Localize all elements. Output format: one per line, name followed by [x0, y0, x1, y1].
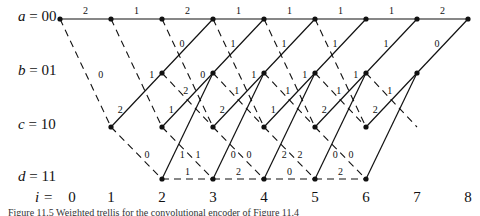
branch-label-b-c: 1: [387, 85, 392, 96]
step-label: 4: [260, 189, 268, 206]
node-c: [108, 124, 113, 129]
node-a: [108, 16, 113, 21]
step-label: 1: [107, 189, 115, 206]
node-c: [210, 124, 215, 129]
node-a: [465, 16, 470, 21]
branch-b-a: [162, 19, 213, 73]
branch-label-b-a: 1: [282, 38, 287, 49]
node-c: [312, 124, 317, 129]
node-d: [261, 176, 266, 181]
state-label-d: d = 11: [18, 168, 56, 185]
branch-label-c-b: 1: [169, 104, 174, 115]
node-a: [363, 16, 368, 21]
step-label: 8: [464, 189, 472, 206]
node-b: [312, 70, 317, 75]
step-label: 0: [68, 189, 76, 206]
node-b: [414, 70, 419, 75]
step-label: 7: [413, 189, 421, 206]
branch-label-a-a: 1: [338, 5, 343, 16]
branch-label-a-a: 1: [236, 5, 241, 16]
branch-label-a-c: 1: [302, 69, 307, 80]
branch-b-a: [213, 19, 264, 73]
node-b: [159, 70, 164, 75]
branch-label-a-c: 0: [98, 69, 103, 80]
branch-label-d-d: 0: [287, 166, 292, 177]
branch-label-a-a: 2: [185, 5, 190, 16]
branch-label-b-c: 1: [234, 85, 239, 96]
branch-label-d-d: 2: [236, 166, 241, 177]
node-d: [363, 176, 368, 181]
branch-c-b: [111, 73, 162, 127]
branch-label-b-c: 2: [183, 85, 188, 96]
branch-label-c-d: 1: [196, 149, 201, 160]
figure-caption: Figure 11.5 Weighted trellis for the con…: [8, 207, 299, 216]
branch-label-c-d: 0: [145, 149, 150, 160]
branch-label-a-c: 1: [251, 69, 256, 80]
branch-label-b-c: 1: [285, 85, 290, 96]
branch-label-d-b: 0: [333, 149, 338, 160]
branch-c-d: [111, 127, 162, 179]
branch-b-a: [264, 19, 315, 73]
branch-label-c-d: 2: [298, 149, 303, 160]
node-a: [414, 16, 419, 21]
branch-label-b-a: 1: [333, 38, 338, 49]
branch-label-c-d: 0: [349, 149, 354, 160]
branch-label-a-a: 2: [83, 5, 88, 16]
branch-label-d-b: 0: [231, 149, 236, 160]
branch-label-a-a: 1: [389, 5, 394, 16]
branch-label-a-a: 1: [134, 5, 139, 16]
step-label: 3: [209, 189, 217, 206]
step-axis-prefix: i =: [35, 189, 53, 206]
branch-label-d-d: 1: [185, 166, 190, 177]
branch-label-a-a: 1: [287, 5, 292, 16]
branch-label-a-c: 1: [353, 69, 358, 80]
node-d: [159, 176, 164, 181]
branch-label-b-c: 1: [336, 85, 341, 96]
trellis-diagram: 2121111201011101111021111212122010201020…: [0, 0, 480, 216]
step-label: 6: [362, 189, 370, 206]
node-c: [363, 124, 368, 129]
node-c: [261, 124, 266, 129]
step-label: 5: [311, 189, 319, 206]
branch-label-d-d: 2: [338, 166, 343, 177]
node-b: [210, 70, 215, 75]
step-label: 2: [158, 189, 166, 206]
state-label-c: c = 10: [18, 116, 56, 133]
branch-label-a-c: 0: [200, 69, 205, 80]
node-a: [312, 16, 317, 21]
node-a: [261, 16, 266, 21]
node-a: [57, 16, 62, 21]
branch-label-a-c: 1: [149, 69, 154, 80]
branch-label-c-b: 2: [220, 104, 225, 115]
branch-b-a: [417, 19, 468, 73]
branch-label-d-b: 2: [282, 149, 287, 160]
state-label-b: b = 01: [18, 62, 56, 79]
branch-label-c-b: 1: [271, 104, 276, 115]
node-a: [159, 16, 164, 21]
node-a: [210, 16, 215, 21]
branch-label-b-a: 0: [435, 38, 440, 49]
node-b: [363, 70, 368, 75]
node-d: [312, 176, 317, 181]
branch-a-c: [60, 19, 111, 127]
node-b: [261, 70, 266, 75]
branch-label-c-d: 0: [247, 149, 252, 160]
branch-label-d-b: 1: [180, 149, 185, 160]
branch-b-a: [315, 19, 366, 73]
branch-label-c-b: 2: [118, 104, 123, 115]
branch-b-a: [366, 19, 417, 73]
branch-label-c-b: 2: [322, 104, 327, 115]
node-c: [159, 124, 164, 129]
node-d: [210, 176, 215, 181]
state-label-a: a = 00: [18, 8, 56, 25]
branch-label-c-b: 2: [373, 104, 378, 115]
branch-label-b-a: 0: [180, 38, 185, 49]
branch-label-b-a: 1: [384, 38, 389, 49]
branch-label-a-a: 2: [440, 5, 445, 16]
branch-label-b-a: 1: [231, 38, 236, 49]
